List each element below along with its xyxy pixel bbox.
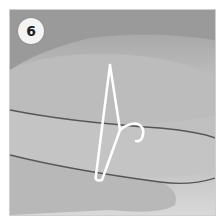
step-number-badge: 6 [18,18,44,44]
instruction-step-image: 6 [0,0,223,223]
hand-with-hanger-illustration [10,10,215,215]
